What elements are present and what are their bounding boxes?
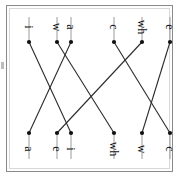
bottom-node-dot[interactable]	[168, 131, 172, 135]
top-node-label: c	[108, 24, 120, 29]
bottom-node-label: a	[23, 146, 35, 151]
matching-edge	[114, 42, 170, 133]
top-node-label: a	[65, 24, 77, 29]
top-node-dot[interactable]	[112, 40, 116, 44]
matching-edge	[57, 42, 142, 133]
bottom-node-label: c	[164, 146, 176, 151]
diagram-plot-area: iwacwheaeiwhwc	[10, 9, 169, 168]
top-node-dot[interactable]	[55, 40, 59, 44]
bottom-node-dot[interactable]	[140, 131, 144, 135]
bottom-node-label: w	[136, 145, 148, 154]
bottom-node-label: e	[51, 146, 63, 151]
top-node-label: e	[164, 24, 176, 29]
top-node-dot[interactable]	[140, 40, 144, 44]
top-node-dot[interactable]	[168, 40, 172, 44]
matching-edge	[57, 42, 114, 133]
bottom-node-dot[interactable]	[55, 131, 59, 135]
top-node-dot[interactable]	[27, 40, 31, 44]
edge-artifact-mark	[1, 62, 4, 69]
bottom-node-label: wh	[108, 142, 120, 157]
matching-edge	[142, 42, 170, 133]
top-node-label: i	[23, 25, 35, 28]
top-node-label: wh	[136, 20, 148, 35]
bottom-node-dot[interactable]	[27, 131, 31, 135]
figure-canvas: iwacwheaeiwhwc	[0, 0, 179, 178]
top-node-dot[interactable]	[69, 40, 73, 44]
bottom-node-label: i	[65, 147, 77, 150]
bottom-node-dot[interactable]	[112, 131, 116, 135]
top-node-label: w	[51, 23, 63, 32]
bottom-node-dot[interactable]	[69, 131, 73, 135]
